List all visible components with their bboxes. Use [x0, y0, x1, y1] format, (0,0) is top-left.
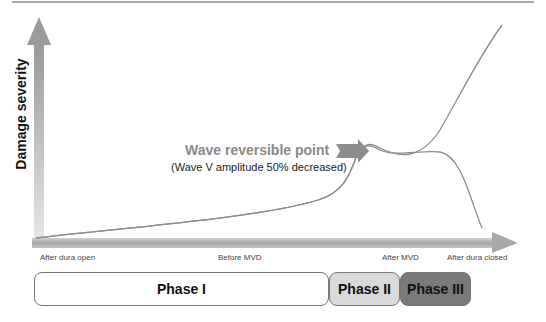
x-label-before-mvd: Before MVD: [218, 253, 262, 262]
x-label-after-dura-open: After dura open: [40, 253, 95, 262]
phase-1-box: Phase I: [34, 272, 329, 306]
x-label-after-mvd: After MVD: [382, 253, 419, 262]
y-axis-label: Damage severity: [13, 54, 31, 174]
damage-curves: [36, 25, 502, 238]
wave-reversible-point-subtitle: (Wave V amplitude 50% decreased): [171, 161, 347, 173]
x-label-after-dura-closed: After dura closed: [447, 253, 507, 262]
pointer-arrow-icon: [336, 139, 369, 163]
x-axis-arrow: [32, 232, 518, 253]
phase-3-box: Phase III: [400, 272, 471, 306]
phase-2-box: Phase II: [329, 272, 400, 306]
wave-reversible-point-label: Wave reversible point: [185, 142, 329, 158]
curve-rising: [36, 25, 502, 238]
curve-falling: [36, 146, 482, 238]
